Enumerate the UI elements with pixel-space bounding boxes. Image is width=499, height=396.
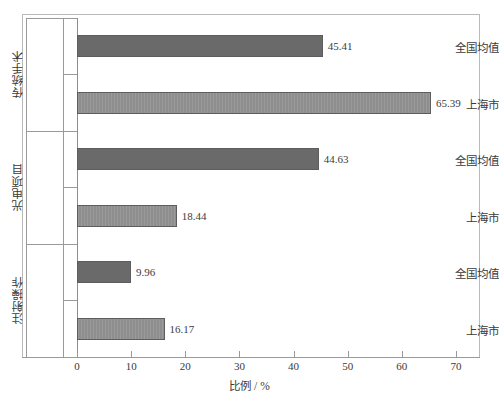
category-label: 上海市 bbox=[439, 322, 499, 338]
x-axis-tick-label: 40 bbox=[288, 360, 299, 372]
group-axis-line bbox=[26, 18, 27, 357]
x-axis-tick bbox=[294, 351, 295, 357]
group-label-traditional-surgery: 传统手术 bbox=[10, 18, 26, 131]
x-axis-tick bbox=[456, 351, 457, 357]
category-axis-tick bbox=[63, 300, 77, 301]
group-label-photoelectric-project: 光电项目 bbox=[10, 131, 26, 244]
bar-value-label: 18.44 bbox=[182, 205, 207, 227]
bar-value-label: 16.17 bbox=[170, 318, 195, 340]
bar-value-label: 44.63 bbox=[324, 148, 349, 170]
x-axis-tick-label: 50 bbox=[342, 360, 353, 372]
x-axis-tick bbox=[239, 351, 240, 357]
group-axis-tick bbox=[26, 18, 63, 19]
group-axis-tick bbox=[26, 131, 63, 132]
x-axis-tick-label: 20 bbox=[180, 360, 191, 372]
bar-injection-national bbox=[77, 261, 131, 283]
x-axis-title: 比例 / % bbox=[0, 377, 499, 393]
group-axis-tick bbox=[26, 244, 63, 245]
bar-photoelectric-shanghai bbox=[77, 205, 177, 227]
bar-traditional-surgery-shanghai bbox=[77, 92, 431, 114]
category-axis-tick bbox=[63, 187, 77, 188]
bar-photoelectric-national bbox=[77, 148, 319, 170]
category-axis-tick bbox=[63, 244, 77, 245]
x-axis-tick-label: 30 bbox=[234, 360, 245, 372]
x-axis-tick bbox=[402, 351, 403, 357]
category-label: 全国均值 bbox=[439, 39, 499, 55]
x-axis-tick-label: 0 bbox=[74, 360, 80, 372]
value-axis-baseline bbox=[77, 18, 78, 357]
x-axis-tick-label: 10 bbox=[126, 360, 137, 372]
bar-injection-shanghai bbox=[77, 318, 165, 340]
bar-value-label: 9.96 bbox=[136, 261, 155, 283]
x-axis-tick bbox=[348, 351, 349, 357]
category-axis-tick bbox=[63, 18, 77, 19]
x-axis-tick-label: 70 bbox=[451, 360, 462, 372]
x-axis-tick bbox=[77, 351, 78, 357]
category-label: 全国均值 bbox=[439, 152, 499, 168]
bar-value-label: 45.41 bbox=[328, 35, 353, 57]
frame-top-border bbox=[22, 14, 480, 15]
bar-traditional-surgery-national bbox=[77, 35, 323, 57]
x-axis-tick bbox=[131, 351, 132, 357]
category-label: 上海市 bbox=[439, 209, 499, 225]
category-axis-tick bbox=[63, 74, 77, 75]
frame-right-border bbox=[479, 14, 480, 358]
category-axis-tick bbox=[63, 131, 77, 132]
bar-value-label: 65.39 bbox=[436, 92, 461, 114]
x-axis-tick bbox=[185, 351, 186, 357]
x-axis-tick-label: 60 bbox=[396, 360, 407, 372]
bar-chart: 传统手术 光电项目 注射操作 全国均值 上海市 全国均值 上海市 全国均值 上海… bbox=[0, 0, 499, 396]
group-label-injection-operation: 注射操作 bbox=[10, 244, 26, 357]
category-label: 全国均值 bbox=[439, 265, 499, 281]
x-axis-line bbox=[26, 357, 456, 358]
